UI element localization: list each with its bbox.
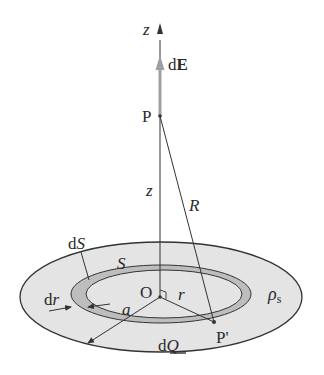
point-P-prime [212, 320, 216, 324]
S-label: S [117, 254, 126, 273]
point-P-label: P [142, 107, 151, 126]
z-axis-arrowhead [157, 23, 163, 34]
dE-label: dE [168, 55, 188, 74]
dQ-label: dQ [158, 336, 179, 355]
z-axis-label: z [142, 20, 150, 39]
z-distance-label: z [145, 181, 153, 200]
R-distance-label: R [188, 196, 200, 215]
a-label: a [122, 300, 131, 319]
dE-arrowhead [156, 55, 165, 70]
disk-field-diagram: z dE P z R dS S dr O r a ρs P' dQ [0, 0, 324, 375]
dS-label: dS [68, 234, 86, 253]
r-label: r [178, 285, 185, 304]
point-P-prime-label: P' [216, 328, 229, 347]
ring-inner [86, 270, 242, 318]
dr-label: dr [44, 290, 60, 309]
origin-label: O [140, 283, 152, 302]
